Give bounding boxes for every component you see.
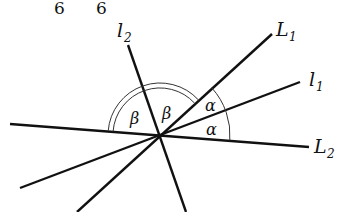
beta-right-label: β [161, 104, 171, 123]
alpha-upper-label: α [205, 96, 216, 115]
alpha-lower-label: α [206, 120, 217, 139]
svg-text:1: 1 [316, 80, 324, 94]
svg-text:l: l [117, 19, 123, 41]
beta-left-label: β [129, 109, 139, 128]
svg-text:L: L [313, 135, 327, 157]
beta-arc-inner [113, 88, 195, 131]
angle-diagram: 6 6 α α β β l 2 L 1 l 1 L 2 [0, 0, 337, 212]
svg-text:2: 2 [123, 31, 132, 45]
svg-text:L: L [275, 18, 289, 40]
label-l2: l 2 [117, 19, 132, 45]
svg-text:1: 1 [289, 30, 297, 44]
label-l1: l 1 [309, 68, 324, 94]
svg-text:2: 2 [326, 147, 335, 161]
label-L1: L 1 [275, 18, 297, 44]
line-L1 [77, 34, 272, 212]
top-fragment-1: 6 [54, 0, 65, 18]
label-L2: L 2 [313, 135, 335, 161]
top-fragment-2: 6 [96, 0, 107, 18]
svg-text:l: l [309, 68, 315, 90]
